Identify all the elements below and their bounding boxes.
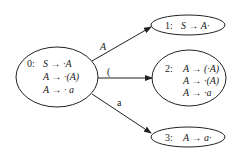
state-3-item-1: A → a·: [182, 132, 211, 143]
state-0-node: 0: S → ·A A → ·(A) A → · a: [16, 47, 98, 107]
transition-0-2-symbol: (: [107, 66, 111, 78]
state-1-label: 1:: [165, 20, 173, 31]
state-3-label: 3:: [165, 132, 173, 143]
state-2-label: 2:: [165, 63, 173, 74]
transition-0-to-1: A: [92, 27, 151, 61]
state-1-item-1: S → A·: [181, 20, 209, 31]
transition-0-3-symbol: a: [117, 97, 122, 108]
arrow-icon: [92, 94, 151, 133]
state-0-item-1: S → ·A: [43, 58, 73, 69]
transition-0-to-2: (: [98, 66, 152, 78]
state-2-item-3: A → ·a: [182, 87, 211, 98]
transition-0-to-3: a: [92, 94, 151, 133]
state-0-item-2: A → ·(A): [42, 71, 80, 83]
lr0-automaton-diagram: 0: S → ·A A → ·(A) A → · a 1: S → A· 2: …: [0, 0, 246, 156]
state-1-node: 1: S → A·: [151, 15, 225, 35]
state-2-node: 2: A → (·A) A → ·(A) A → ·a: [152, 50, 226, 106]
state-2-item-1: A → (·A): [182, 63, 220, 75]
state-0-item-3: A → · a: [42, 84, 74, 95]
state-2-item-2: A → ·(A): [182, 75, 220, 87]
transition-0-1-symbol: A: [99, 41, 107, 52]
state-0-label: 0:: [27, 58, 35, 69]
state-3-node: 3: A → a·: [151, 127, 225, 147]
